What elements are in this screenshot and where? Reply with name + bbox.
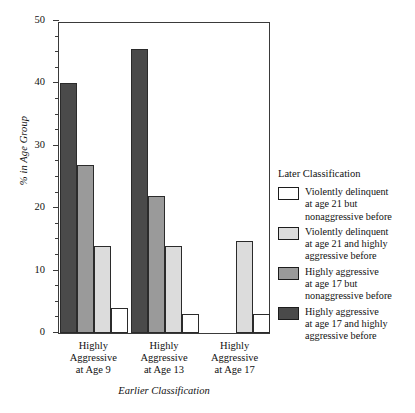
- legend-item: Violently delinquentat age 21 butnonaggr…: [278, 186, 415, 223]
- bar: [148, 196, 165, 333]
- y-axis-major-tick: 50: [53, 20, 59, 21]
- bar: [182, 314, 199, 333]
- legend-item: Highly aggressiveat age 17 and highlyagg…: [278, 306, 415, 343]
- bar: [60, 83, 77, 333]
- y-axis-tick-label: 30: [35, 140, 46, 151]
- bar: [111, 308, 128, 333]
- bar: [94, 246, 111, 333]
- x-axis-group-label-line: Aggressive: [185, 352, 285, 364]
- bar: [236, 241, 253, 333]
- x-axis-group-label-line: Highly: [185, 340, 285, 352]
- y-axis-tick-label: 0: [40, 327, 45, 338]
- y-axis-tick-label: 10: [35, 264, 46, 275]
- bar-chart-figure: % in Age Group 01020304050 HighlyAggress…: [0, 0, 415, 413]
- legend-item-label-line: nonaggressive before: [305, 290, 392, 302]
- legend-item-label-line: at age 21 and highly: [305, 238, 388, 250]
- x-axis-title: Earlier Classification: [58, 385, 270, 396]
- bar: [131, 49, 148, 333]
- x-axis-group-label-line: at Age 17: [185, 364, 285, 376]
- legend-item: Highly aggressiveat age 17 butnonaggress…: [278, 266, 415, 303]
- legend-item-label-line: at age 21 but: [305, 198, 392, 210]
- bar: [77, 165, 94, 333]
- legend-item-label: Violently delinquentat age 21 butnonaggr…: [305, 186, 392, 223]
- legend-item-label-line: Violently delinquent: [305, 186, 392, 198]
- bar: [253, 314, 270, 333]
- legend-item-label: Violently delinquentat age 21 and highly…: [305, 226, 388, 263]
- y-axis-tick-label: 50: [35, 15, 46, 26]
- legend-item-label-line: aggressive before: [305, 250, 388, 262]
- legend-item-label-line: Highly aggressive: [305, 266, 392, 278]
- legend-swatch: [278, 227, 299, 240]
- bar: [165, 246, 182, 333]
- x-axis-group-label: HighlyAggressiveat Age 17: [185, 340, 285, 377]
- y-axis-tick-label: 40: [35, 77, 46, 88]
- legend: Later Classification Violently delinquen…: [278, 168, 415, 346]
- legend-item-label-line: at age 17 and highly: [305, 318, 388, 330]
- legend-title: Later Classification: [278, 168, 415, 179]
- bar-series-container: [59, 23, 269, 333]
- legend-item-label-line: at age 17 but: [305, 278, 392, 290]
- plot-area: 01020304050: [58, 22, 270, 334]
- legend-item-label: Highly aggressiveat age 17 butnonaggress…: [305, 266, 392, 303]
- legend-swatch: [278, 267, 299, 280]
- legend-item-label: Highly aggressiveat age 17 and highlyagg…: [305, 306, 388, 343]
- legend-item-label-line: aggressive before: [305, 330, 388, 342]
- legend-swatch: [278, 307, 299, 320]
- legend-item-label-line: nonaggressive before: [305, 211, 392, 223]
- y-axis-tick-label: 20: [35, 202, 46, 213]
- legend-item: Violently delinquentat age 21 and highly…: [278, 226, 415, 263]
- legend-items: Violently delinquentat age 21 butnonaggr…: [278, 186, 415, 343]
- y-axis-title: % in Age Group: [18, 81, 29, 221]
- legend-item-label-line: Violently delinquent: [305, 226, 388, 238]
- legend-swatch: [278, 187, 299, 200]
- legend-item-label-line: Highly aggressive: [305, 306, 388, 318]
